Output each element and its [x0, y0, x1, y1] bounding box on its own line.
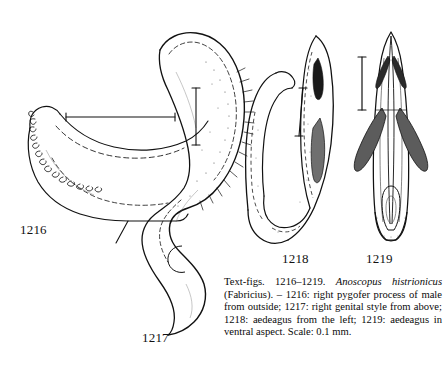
style-stipple: [168, 61, 230, 213]
pygofer-spine-row: [29, 111, 102, 192]
aedeagus-aperture-lower: [311, 118, 324, 183]
figure-label-1218: 1218: [282, 251, 309, 267]
figure-label-1217: 1217: [142, 330, 169, 346]
caption-prefix: Text-figs. 1216–1219.: [224, 276, 336, 287]
figure-label-1216: 1216: [20, 222, 47, 238]
scale-bar-1219: [358, 57, 366, 110]
aedeagus-aperture-upper: [313, 58, 323, 100]
scale-bar-1216: [66, 113, 175, 121]
lateral-process-left: [354, 108, 386, 171]
caption-species-name: Anoscopus histrionicus: [336, 276, 442, 287]
caption-body: (Fabricius). – 1216: right pygofer proce…: [224, 289, 442, 338]
figure-label-1219: 1219: [366, 251, 393, 267]
apical-spine-left: [376, 56, 390, 88]
lateral-process-right: [396, 108, 428, 171]
apical-spine-right: [392, 56, 406, 88]
figure-1219-drawing: [354, 32, 428, 241]
figure-caption: Text-figs. 1216–1219. Anoscopus histrion…: [224, 276, 442, 339]
figure-1216-drawing: [28, 106, 208, 243]
figure-1218-drawing: [246, 36, 334, 243]
